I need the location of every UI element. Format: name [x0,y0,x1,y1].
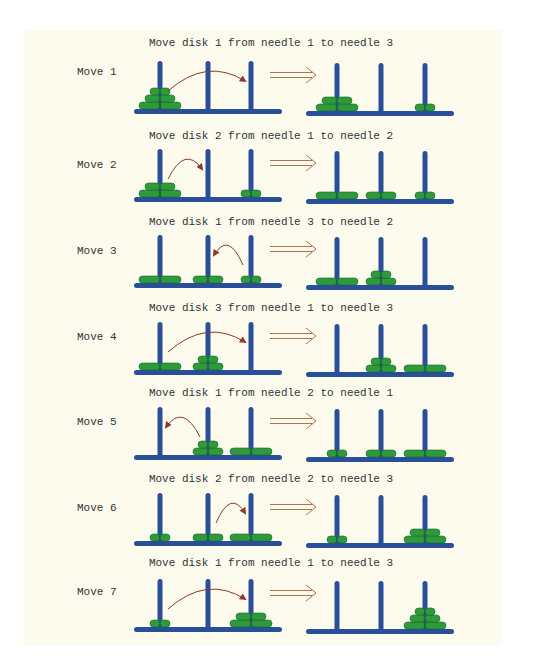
svg-text:1: 1 [207,357,210,363]
before-state: 321 [134,61,282,114]
disk-2: 2 [366,192,396,199]
svg-text:1: 1 [424,609,427,615]
disk-1: 1 [371,271,391,278]
move-label: Move 3 [77,245,117,257]
svg-text:3: 3 [159,103,162,109]
board-base [306,629,454,634]
peg-1 [335,581,340,631]
board-base [306,285,454,290]
after-state: 132 [306,495,454,548]
peg-2 [379,63,384,113]
svg-text:2: 2 [159,184,162,190]
disk-3: 3 [230,620,272,627]
move-caption: Move disk 1 from needle 2 to needle 1 [149,387,394,399]
board-base [134,627,282,632]
peg-2 [379,495,384,545]
svg-text:1: 1 [424,193,427,199]
peg-3 [249,322,254,372]
svg-text:1: 1 [250,277,253,283]
after-state: 321 [306,581,454,634]
move-arrow [214,245,243,265]
svg-text:2: 2 [380,366,383,372]
before-state: 321 [134,149,282,202]
peg-2 [206,579,211,629]
disk-3: 3 [139,102,181,109]
svg-text:2: 2 [380,193,383,199]
svg-text:1: 1 [159,89,162,95]
board-base [306,199,454,204]
svg-text:2: 2 [207,364,210,370]
move-caption: Move disk 2 from needle 1 to needle 2 [149,130,393,142]
peg-3 [423,237,428,287]
move-row-5: Move disk 1 from needle 2 to needle 1Mov… [77,387,454,462]
svg-text:2: 2 [336,98,339,104]
board-base [134,109,282,114]
disk-2: 2 [366,450,396,457]
peg-2 [206,61,211,111]
move-row-2: Move disk 2 from needle 1 to needle 2Mov… [77,130,454,204]
svg-text:3: 3 [336,279,339,285]
svg-text:2: 2 [424,616,427,622]
disk-1: 1 [327,536,347,543]
disk-1: 1 [198,356,218,363]
hanoi-diagram: Move disk 1 from needle 1 to needle 3Mov… [0,0,542,660]
disk-1: 1 [241,190,261,197]
disk-3: 3 [316,278,358,285]
move-row-7: Move disk 1 from needle 1 to needle 3Mov… [77,557,454,634]
move-arrow [216,503,245,523]
before-state: 321 [134,235,282,288]
after-state: 321 [306,151,454,204]
move-row-1: Move disk 1 from needle 1 to needle 3Mov… [77,37,454,116]
svg-text:2: 2 [207,535,210,541]
move-caption: Move disk 1 from needle 1 to needle 3 [149,557,393,569]
disk-1: 1 [150,88,170,95]
move-caption: Move disk 1 from needle 1 to needle 3 [149,37,393,49]
board-base [134,455,282,460]
svg-text:1: 1 [159,621,162,627]
move-row-6: Move disk 2 from needle 2 to needle 3Mov… [77,473,454,548]
before-state: 123 [134,493,282,546]
disk-2: 2 [410,615,440,622]
move-arrow [168,159,202,179]
disk-3: 3 [139,363,181,370]
svg-text:2: 2 [250,614,253,620]
disk-2: 2 [366,278,396,285]
disk-2: 2 [193,363,223,370]
svg-text:1: 1 [336,451,339,457]
disk-2: 2 [322,97,352,104]
disk-2: 2 [410,529,440,536]
after-state: 213 [306,324,454,377]
move-label: Move 5 [77,416,117,428]
svg-text:1: 1 [159,535,162,541]
move-label: Move 7 [77,586,117,598]
svg-text:3: 3 [424,451,427,457]
svg-text:2: 2 [159,96,162,102]
disk-3: 3 [230,448,272,455]
move-label: Move 1 [77,66,117,78]
svg-text:3: 3 [250,449,253,455]
transition-arrow-icon [270,413,316,429]
board-base [306,111,454,116]
transition-arrow-icon [270,155,316,171]
disk-2: 2 [145,95,175,102]
svg-text:3: 3 [250,621,253,627]
move-caption: Move disk 2 from needle 2 to needle 3 [149,473,393,485]
svg-text:2: 2 [424,530,427,536]
disk-3: 3 [404,536,446,543]
board-base [306,457,454,462]
disk-1: 1 [371,358,391,365]
svg-text:3: 3 [424,623,427,629]
svg-text:1: 1 [250,191,253,197]
disk-3: 3 [139,190,181,197]
board-base [134,197,282,202]
disk-3: 3 [316,104,358,111]
move-label: Move 6 [77,502,117,514]
disk-3: 3 [404,365,446,372]
svg-text:2: 2 [207,277,210,283]
peg-2 [206,149,211,199]
move-row-3: Move disk 1 from needle 3 to needle 2Mov… [77,216,454,290]
svg-text:3: 3 [159,277,162,283]
after-state: 123 [306,409,454,462]
svg-text:3: 3 [424,366,427,372]
peg-1 [158,407,163,457]
